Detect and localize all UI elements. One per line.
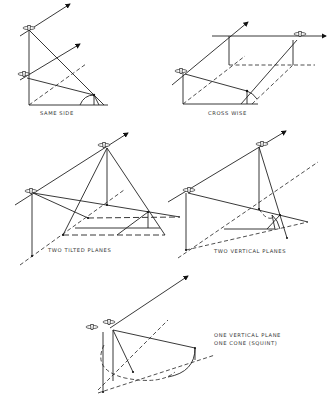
aircraft-icon [23, 26, 35, 31]
panel-label-line2: ONE CONE (SQUINT) [214, 340, 277, 346]
aircraft-icon [256, 142, 268, 147]
diagram-figure: SAME SIDE CROSS WISE [0, 0, 336, 400]
panel-same-side: SAME SIDE [18, 4, 108, 116]
panel-label: TWO VERTICAL PLANES [213, 248, 286, 254]
panel-cross-wise: CROSS WISE [172, 22, 326, 116]
panel-label: TWO TILTED PLANES [47, 247, 111, 253]
panel-label-line1: ONE VERTICAL PLANE [214, 332, 281, 338]
aircraft-icon [86, 325, 98, 330]
panel-label: SAME SIDE [40, 110, 74, 116]
aircraft-icon [175, 69, 187, 74]
aircraft-icon [98, 143, 110, 148]
aircraft-icon [18, 72, 30, 77]
panel-one-vertical-plane-one-cone: ONE VERTICAL PLANE ONE CONE (SQUINT) [86, 276, 281, 393]
aircraft-icon [103, 320, 115, 325]
panel-label: CROSS WISE [208, 110, 247, 116]
aircraft-icon [25, 189, 37, 194]
panel-two-tilted-planes: TWO TILTED PLANES [15, 133, 180, 265]
panel-two-vertical-planes: TWO VERTICAL PLANES [168, 131, 318, 258]
